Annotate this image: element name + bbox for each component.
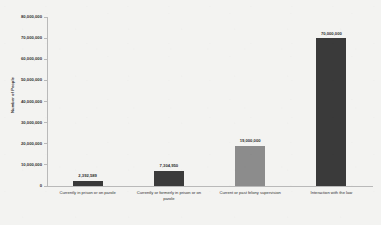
bar-group: 7,304,950 xyxy=(154,17,184,186)
y-tick: 0 xyxy=(0,182,47,190)
y-tick-label: 10,000,000 xyxy=(21,161,42,169)
bar-group: 2,392,589 xyxy=(73,17,103,186)
bar[interactable] xyxy=(154,171,184,186)
x-axis-line xyxy=(47,186,373,187)
y-tick-label: 60,000,000 xyxy=(21,55,42,63)
y-tick: 50,000,000 xyxy=(0,76,47,84)
plot-area: 2,392,5897,304,95019,000,00070,000,000 xyxy=(47,17,372,186)
bar-value-label: 70,000,000 xyxy=(321,31,342,37)
y-tick: 60,000,000 xyxy=(0,55,47,63)
y-tick-label: 80,000,000 xyxy=(21,13,42,21)
x-category-label: Interaction with the law xyxy=(295,190,368,196)
bar-group: 70,000,000 xyxy=(316,17,346,186)
bar[interactable] xyxy=(73,181,103,186)
y-tick-label: 0 xyxy=(40,182,42,190)
y-tick: 30,000,000 xyxy=(0,119,47,127)
bar-value-label: 2,392,589 xyxy=(78,173,97,179)
y-tick: 70,000,000 xyxy=(0,34,47,42)
bar-chart: Number of People 80,000,00070,000,00060,… xyxy=(0,0,381,225)
bar-group: 19,000,000 xyxy=(235,17,265,186)
bar[interactable] xyxy=(316,38,346,186)
bar[interactable] xyxy=(235,146,265,186)
y-tick-label: 30,000,000 xyxy=(21,119,42,127)
x-category-label: Currently or formerly in prison or on pa… xyxy=(132,190,205,202)
y-tick-label: 50,000,000 xyxy=(21,76,42,84)
y-tick-label: 40,000,000 xyxy=(21,98,42,106)
x-category-label: Currently in prison or on parole xyxy=(51,190,124,196)
bar-value-label: 19,000,000 xyxy=(240,138,261,144)
y-tick: 20,000,000 xyxy=(0,140,47,148)
y-tick: 40,000,000 xyxy=(0,98,47,106)
x-category-label: Current or past felony supervision xyxy=(214,190,287,196)
y-tick: 10,000,000 xyxy=(0,161,47,169)
y-tick-label: 20,000,000 xyxy=(21,140,42,148)
bar-value-label: 7,304,950 xyxy=(160,163,179,169)
y-tick: 80,000,000 xyxy=(0,13,47,21)
y-tick-label: 70,000,000 xyxy=(21,34,42,42)
